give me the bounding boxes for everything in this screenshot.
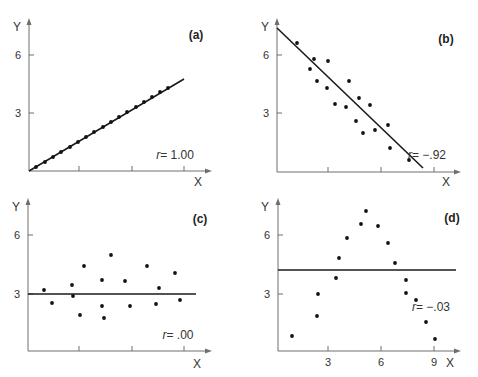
x-axis-label: X	[446, 356, 454, 370]
panel-label: (a)	[189, 28, 204, 42]
data-point	[376, 224, 380, 228]
y-tick-label: 3	[264, 288, 270, 300]
data-point	[325, 86, 329, 90]
data-point	[102, 316, 106, 320]
data-point	[308, 67, 312, 71]
x-axis-label: X	[193, 357, 201, 371]
scatter-panel-d: 36936XY(d)r= −.03	[261, 198, 461, 370]
x-axis-arrow-icon	[454, 170, 461, 175]
panel-label: (c)	[193, 212, 208, 226]
data-point	[125, 110, 129, 114]
data-point	[333, 102, 337, 106]
data-point	[173, 271, 177, 275]
data-point	[359, 222, 363, 226]
data-point	[150, 95, 154, 99]
data-point	[334, 276, 338, 280]
data-point	[34, 165, 38, 169]
data-point	[316, 292, 320, 296]
panel-label: (d)	[444, 211, 459, 225]
data-point	[361, 131, 365, 135]
panel-label: (b)	[438, 32, 453, 46]
data-point	[315, 314, 319, 318]
data-point	[315, 79, 319, 83]
data-point	[347, 79, 351, 83]
data-point	[76, 140, 80, 144]
data-point	[433, 337, 437, 341]
data-point	[145, 264, 149, 268]
data-point	[59, 150, 63, 154]
x-axis-arrow-icon	[205, 349, 212, 354]
x-tick-label: 9	[431, 356, 437, 368]
y-tick-label: 3	[263, 107, 269, 119]
data-point	[68, 145, 72, 149]
x-axis-label: X	[442, 175, 450, 189]
data-point	[70, 283, 74, 287]
correlation-label: r= 1.00	[156, 148, 194, 162]
data-point	[154, 302, 158, 306]
data-point	[345, 236, 349, 240]
data-point	[368, 103, 372, 107]
data-point	[84, 135, 88, 139]
y-tick-label: 6	[14, 229, 20, 241]
r-value: = −.03	[416, 300, 450, 314]
data-point	[178, 298, 182, 302]
y-tick-label: 6	[15, 49, 21, 61]
y-tick-label: 3	[14, 288, 20, 300]
correlation-scatterplot-figure: 36XY(a)r= 1.0036XY(b)r= −.9236XY(c)r= .0…	[0, 0, 478, 377]
data-point	[295, 41, 299, 45]
x-tick-label: 3	[325, 356, 331, 368]
data-point	[404, 278, 408, 282]
y-tick-label: 3	[15, 107, 21, 119]
data-point	[344, 105, 348, 109]
data-point	[82, 264, 86, 268]
y-axis-arrow-icon	[276, 198, 281, 205]
data-point	[424, 320, 428, 324]
data-point	[337, 256, 341, 260]
data-point	[109, 253, 113, 257]
data-point	[354, 119, 358, 123]
x-axis-arrow-icon	[205, 169, 212, 174]
y-axis-arrow-icon	[27, 18, 32, 25]
y-axis-label: Y	[13, 20, 21, 34]
data-point	[386, 241, 390, 245]
data-point	[71, 294, 75, 298]
scatter-panel-b: 36XY(b)r= −.92	[261, 18, 461, 189]
data-point	[78, 313, 82, 317]
data-point	[312, 57, 316, 61]
data-point	[290, 334, 294, 338]
correlation-label: r= −.92	[408, 148, 446, 162]
data-point	[357, 96, 361, 100]
data-point	[393, 261, 397, 265]
data-point	[166, 86, 170, 90]
correlation-label: r= −.03	[412, 300, 450, 314]
data-point	[157, 286, 161, 290]
r-value: = .00	[166, 328, 193, 342]
data-point	[373, 128, 377, 132]
data-point	[134, 105, 138, 109]
data-point	[386, 123, 390, 127]
data-point	[404, 291, 408, 295]
scatter-panel-c: 36XY(c)r= .00	[12, 198, 212, 371]
x-axis-label: X	[194, 175, 202, 189]
data-point	[100, 304, 104, 308]
y-axis-label: Y	[12, 200, 20, 214]
data-point	[92, 130, 96, 134]
data-point	[100, 278, 104, 282]
data-point	[388, 146, 392, 150]
data-point	[43, 160, 47, 164]
y-axis-arrow-icon	[26, 198, 31, 205]
y-tick-label: 6	[263, 49, 269, 61]
data-point	[109, 120, 113, 124]
y-axis-label: Y	[261, 200, 269, 214]
data-point	[42, 288, 46, 292]
x-tick-label: 6	[378, 356, 384, 368]
data-point	[158, 90, 162, 94]
data-point	[101, 125, 105, 129]
correlation-label: r= .00	[162, 328, 193, 342]
data-point	[326, 59, 330, 63]
x-axis-arrow-icon	[454, 349, 461, 354]
data-point	[117, 115, 121, 119]
data-point	[51, 155, 55, 159]
data-point	[123, 279, 127, 283]
data-point	[142, 100, 146, 104]
